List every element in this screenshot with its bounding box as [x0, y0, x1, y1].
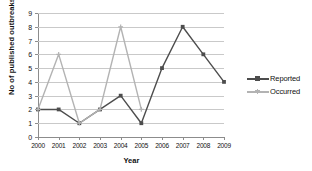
x-tick-mark [141, 137, 142, 140]
x-tick-mark [224, 137, 225, 140]
x-tick-mark [79, 137, 80, 140]
y-tick-label: 2 [28, 106, 32, 113]
y-tick-label: 9 [28, 10, 32, 17]
x-tick-mark [162, 137, 163, 140]
x-tick-mark [38, 137, 39, 140]
x-tick-label: 2004 [114, 142, 128, 149]
legend-label: Reported [269, 74, 300, 83]
chart-legend: ReportedOccurred [247, 72, 300, 98]
y-tick-label: 6 [28, 51, 32, 58]
x-tick-label: 2007 [176, 142, 190, 149]
y-tick-label: 4 [28, 78, 32, 85]
y-tick-mark [35, 27, 38, 28]
y-tick-mark [35, 68, 38, 69]
y-tick-label: 3 [28, 92, 32, 99]
y-tick-label: 5 [28, 65, 32, 72]
plot-area [38, 13, 224, 137]
y-tick-mark [35, 41, 38, 42]
gridline [38, 54, 224, 55]
x-tick-mark [203, 137, 204, 140]
y-tick-mark [35, 13, 38, 14]
gridline [38, 109, 224, 110]
legend-swatch-icon [247, 86, 269, 97]
x-axis-line [38, 137, 225, 138]
gridline [38, 41, 224, 42]
gridline [38, 123, 224, 124]
y-tick-mark [35, 123, 38, 124]
y-tick-mark [35, 54, 38, 55]
x-tick-mark [59, 137, 60, 140]
x-tick-label: 2003 [93, 142, 107, 149]
gridline [38, 68, 224, 69]
y-tick-label: 8 [28, 23, 32, 30]
y-tick-mark [35, 82, 38, 83]
y-tick-label: 0 [28, 134, 32, 141]
x-tick-label: 2000 [31, 142, 45, 149]
gridline [38, 27, 224, 28]
y-tick-label: 7 [28, 37, 32, 44]
x-tick-label: 2002 [72, 142, 86, 149]
x-tick-label: 2009 [217, 142, 231, 149]
gridline [38, 96, 224, 97]
gridline [38, 82, 224, 83]
x-tick-label: 2008 [196, 142, 210, 149]
y-axis-title: No of published outbreaks [7, 0, 16, 102]
gridline [38, 13, 224, 14]
y-tick-label: 1 [28, 120, 32, 127]
x-tick-label: 2006 [155, 142, 169, 149]
legend-label: Occurred [269, 87, 300, 96]
x-tick-mark [121, 137, 122, 140]
legend-item-reported[interactable]: Reported [247, 72, 300, 85]
x-tick-label: 2001 [52, 142, 66, 149]
legend-item-occurred[interactable]: Occurred [247, 85, 300, 98]
x-tick-mark [100, 137, 101, 140]
y-tick-mark [35, 109, 38, 110]
x-axis-title: Year [38, 156, 225, 165]
legend-swatch-icon [247, 73, 269, 84]
line-chart: No of published outbreaks Year 012345678… [0, 0, 312, 171]
x-tick-label: 2005 [134, 142, 148, 149]
y-tick-mark [35, 96, 38, 97]
x-tick-mark [183, 137, 184, 140]
